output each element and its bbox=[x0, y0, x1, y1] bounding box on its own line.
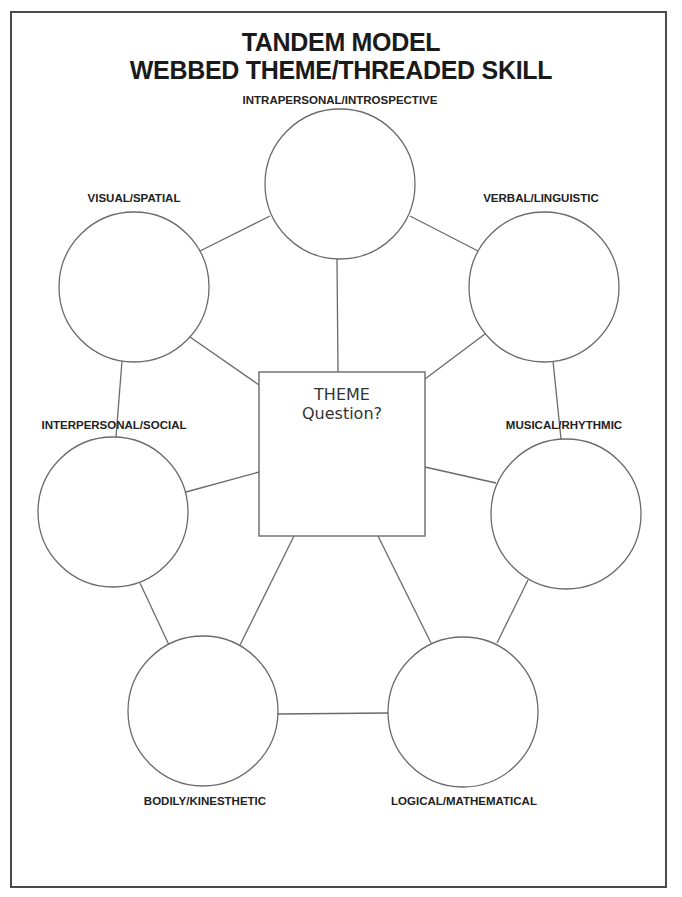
circle-logical[interactable] bbox=[388, 637, 538, 787]
circle-intrapersonal[interactable] bbox=[265, 109, 415, 259]
connector-intrapersonal-theme bbox=[337, 259, 338, 372]
connector-theme-musical bbox=[425, 467, 496, 483]
label-logical-mathematical: LOGICAL/MATHEMATICAL bbox=[391, 795, 537, 807]
circle-musical[interactable] bbox=[491, 439, 641, 589]
connector-musical-logical bbox=[497, 580, 528, 643]
label-intrapersonal: INTRAPERSONAL/INTROSPECTIVE bbox=[243, 94, 438, 106]
connector-interpersonal-bodily bbox=[140, 583, 169, 645]
connector-verbal-theme bbox=[425, 334, 485, 379]
connector-visual-theme bbox=[190, 337, 259, 385]
theme-question-label: Question? bbox=[259, 404, 425, 423]
theme-label: THEME bbox=[259, 385, 425, 404]
connector-bodily-logical bbox=[277, 713, 389, 714]
label-musical-rhythmic: MUSICAL/RHYTHMIC bbox=[506, 419, 622, 431]
connector-intrapersonal-verbal bbox=[410, 216, 478, 251]
connector-interpersonal-theme bbox=[186, 472, 259, 492]
connector-theme-bodily bbox=[239, 536, 294, 647]
circle-verbal[interactable] bbox=[469, 212, 619, 362]
circle-interpersonal[interactable] bbox=[38, 437, 188, 587]
label-bodily-kinesthetic: BODILY/KINESTHETIC bbox=[144, 795, 266, 807]
web-diagram bbox=[0, 0, 682, 897]
connector-intrapersonal-visual bbox=[200, 216, 270, 251]
circle-visual[interactable] bbox=[59, 212, 209, 362]
connector-theme-logical bbox=[378, 536, 431, 643]
label-interpersonal-social: INTERPERSONAL/SOCIAL bbox=[41, 419, 186, 431]
label-verbal-linguistic: VERBAL/LINGUISTIC bbox=[483, 192, 599, 204]
circle-bodily[interactable] bbox=[128, 636, 278, 786]
label-visual-spatial: VISUAL/SPATIAL bbox=[88, 192, 181, 204]
